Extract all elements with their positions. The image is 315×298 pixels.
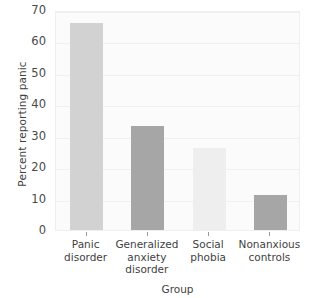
bar [193, 148, 226, 230]
y-axis-tick-label: 50 [6, 68, 46, 80]
x-axis-tick-label-line: disorder [64, 251, 107, 264]
x-axis-tick-labels: PanicdisorderGeneralizedanxietydisorderS… [55, 238, 300, 286]
x-axis-tick-label-line: Social [190, 238, 226, 251]
x-axis-tick-mark [208, 232, 209, 236]
y-axis-tick-label: 30 [6, 131, 46, 143]
x-axis-tick-mark [269, 232, 270, 236]
x-axis-tick-label-line: anxiety [115, 251, 178, 264]
x-axis-title: Group [55, 283, 300, 295]
y-axis-tick-label: 60 [6, 37, 46, 49]
x-axis-tick-label: Panicdisorder [64, 238, 107, 263]
plot-area [55, 11, 300, 231]
x-axis-tick-label: Nonanxiouscontrols [239, 238, 301, 263]
x-axis-tick-mark [86, 232, 87, 236]
bar-chart: Percent reporting panic 010203040506070 … [0, 0, 315, 298]
bar [131, 126, 164, 230]
x-axis-tick-label-line: phobia [190, 251, 226, 264]
y-axis-tick-label: 70 [6, 5, 46, 17]
bar [254, 195, 287, 230]
x-axis-tick-mark [147, 232, 148, 236]
x-axis-tick-label-line: controls [239, 251, 301, 264]
gridline [56, 12, 299, 13]
y-axis-tick-label: 10 [6, 194, 46, 206]
x-axis-tick-label-line: Panic [64, 238, 107, 251]
x-axis-tick-label-line: Nonanxious [239, 238, 301, 251]
y-axis-tick-labels: 010203040506070 [0, 0, 55, 298]
x-axis-tick-label-line: Generalized [115, 238, 178, 251]
x-axis-tick-label-line: disorder [115, 263, 178, 276]
x-axis-tick-label: Socialphobia [190, 238, 226, 263]
y-axis-tick-label: 0 [6, 225, 46, 237]
bar [70, 23, 103, 230]
x-axis-tick-label: Generalizedanxietydisorder [115, 238, 178, 276]
y-axis-tick-label: 20 [6, 162, 46, 174]
y-axis-tick-label: 40 [6, 100, 46, 112]
